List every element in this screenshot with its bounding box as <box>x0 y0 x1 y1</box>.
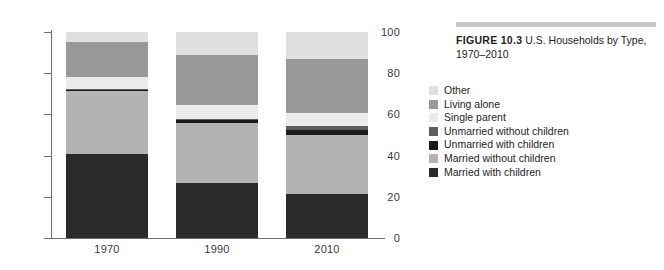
legend-swatch-icon <box>429 100 438 109</box>
bar-2010 <box>286 32 368 238</box>
legend-label: Living alone <box>444 98 500 112</box>
legend-label: Married without children <box>444 152 555 166</box>
legend-item: Married with children <box>429 166 659 180</box>
plot-area <box>52 32 382 238</box>
legend-swatch-icon <box>429 141 438 150</box>
legend-label: Single parent <box>444 111 506 125</box>
y-tick-mark <box>44 32 52 33</box>
bar-segment <box>286 135 368 194</box>
legend-item: Unmarried with children <box>429 138 659 152</box>
x-tick-label-2010: 2010 <box>272 243 382 255</box>
legend-item: Married without children <box>429 152 659 166</box>
figure-caption-label: FIGURE 10.3 <box>456 34 522 46</box>
legend-swatch-icon <box>429 127 438 136</box>
x-axis-line <box>51 238 385 239</box>
bar-segment <box>286 32 368 59</box>
bar-segment <box>176 105 258 118</box>
bar-segment <box>66 154 148 238</box>
bar-segment <box>176 32 258 55</box>
legend-swatch-icon <box>429 86 438 95</box>
legend-label: Unmarried without children <box>444 125 569 139</box>
bar-segment <box>66 91 148 154</box>
bar-segment <box>66 42 148 77</box>
figure-caption: FIGURE 10.3 U.S. Households by Type, 197… <box>456 33 654 61</box>
y-tick-mark <box>44 156 52 157</box>
bar-segment <box>286 113 368 125</box>
bar-segment <box>66 32 148 42</box>
x-tick-label-1970: 1970 <box>52 243 162 255</box>
caption-legend-panel: FIGURE 10.3 U.S. Households by Type, 197… <box>400 0 664 270</box>
bar-1990 <box>176 32 258 238</box>
bar-segment <box>176 55 258 105</box>
x-tick-label-1990: 1990 <box>162 243 272 255</box>
bar-segment <box>176 183 258 238</box>
bar-segment <box>176 123 258 184</box>
legend-label: Unmarried with children <box>444 138 554 152</box>
figure-container: 020406080100 197019902010 FIGURE 10.3 U.… <box>0 0 664 270</box>
y-tick-mark <box>44 114 52 115</box>
y-tick-mark <box>44 197 52 198</box>
legend-swatch-icon <box>429 168 438 177</box>
legend-item: Single parent <box>429 111 659 125</box>
chart-legend: OtherLiving aloneSingle parentUnmarried … <box>429 84 659 179</box>
bar-segment <box>66 77 148 88</box>
legend-item: Unmarried without children <box>429 125 659 139</box>
stacked-bar-chart: 020406080100 197019902010 <box>0 0 400 270</box>
legend-swatch-icon <box>429 154 438 163</box>
legend-swatch-icon <box>429 113 438 122</box>
bar-segment <box>286 59 368 114</box>
legend-label: Other <box>444 84 470 98</box>
legend-item: Other <box>429 84 659 98</box>
y-tick-mark <box>44 73 52 74</box>
bar-segment <box>286 194 368 238</box>
legend-label: Married with children <box>444 166 541 180</box>
y-tick-mark <box>44 238 52 239</box>
legend-item: Living alone <box>429 98 659 112</box>
bar-1970 <box>66 32 148 238</box>
caption-rule <box>456 22 656 27</box>
